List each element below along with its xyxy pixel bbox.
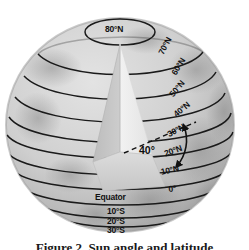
label-latitude-80n: 80°N: [105, 25, 123, 34]
label-equator: Equator: [95, 193, 126, 202]
label-latitude-10s: 10°S: [107, 207, 125, 216]
label-latitude-0: 0°: [168, 184, 177, 193]
label-latitude-30s: 30°S: [107, 226, 125, 235]
label-sun-angle: 40°: [139, 145, 155, 156]
figure-caption: Figure 2. Sun angle and latitude: [0, 240, 249, 250]
figure-container: 80°N 70°N 60°N 50°N 40°N 30°N 20°N 10°N …: [0, 0, 249, 250]
